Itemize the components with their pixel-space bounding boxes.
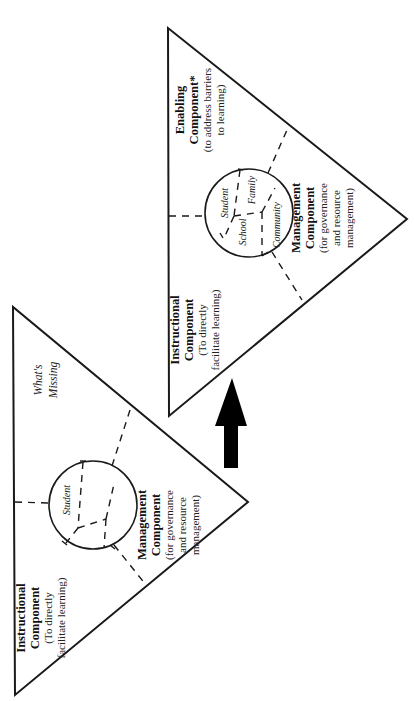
right-management-title1: Management bbox=[289, 182, 303, 253]
whats-label: What's bbox=[32, 364, 44, 396]
right-enabling-title1: Enabling bbox=[173, 85, 187, 134]
right-enabling-title2: Component* bbox=[187, 76, 201, 145]
right-divider-lower bbox=[272, 252, 302, 300]
left-instructional-desc2: facilitate learning) bbox=[55, 577, 68, 658]
left-instructional-desc1: (To directly bbox=[42, 592, 55, 644]
right-enabling-desc2: to learning) bbox=[214, 84, 227, 135]
right-diagram: Student School Family Community Instruct… bbox=[168, 28, 407, 416]
left-instructional-title2: Component bbox=[28, 586, 42, 649]
right-inner-dash-2 bbox=[225, 216, 234, 236]
right-management-component: Management Component (for governance and… bbox=[289, 182, 356, 253]
left-management-desc1: (for governance bbox=[163, 490, 176, 560]
left-management-desc3: management) bbox=[189, 495, 202, 555]
left-inner-dash-2 bbox=[78, 519, 106, 528]
right-divider-upper bbox=[268, 130, 287, 173]
right-instructional-component: Instructional Component (To directly fac… bbox=[168, 289, 222, 370]
left-inner-dash-4 bbox=[104, 519, 106, 548]
right-inner-dash-1 bbox=[234, 170, 240, 216]
left-inner-dash-1 bbox=[78, 462, 83, 528]
right-instructional-desc1: (To directly bbox=[196, 304, 209, 356]
right-management-desc1: (for governance bbox=[317, 183, 330, 253]
left-instructional-title1: Instructional bbox=[14, 583, 28, 653]
missing-label: Missing bbox=[47, 362, 60, 400]
right-instructional-title1: Instructional bbox=[168, 295, 182, 365]
diagram-canvas: Student What's Missing Instructional Com… bbox=[0, 0, 415, 701]
left-instructional-component: Instructional Component (To directly fac… bbox=[14, 577, 68, 658]
left-whats-missing: What's Missing bbox=[32, 362, 60, 400]
left-divider-upper bbox=[112, 410, 130, 466]
left-inner-dash-5 bbox=[66, 528, 78, 543]
right-enabling-component: Enabling Component* (to address barriers… bbox=[173, 68, 227, 152]
right-family-label: Family bbox=[246, 175, 257, 205]
right-management-title2: Component bbox=[303, 186, 317, 249]
left-student-label: Student bbox=[61, 485, 72, 515]
left-inner-dash-3 bbox=[106, 484, 114, 519]
right-school-label: School bbox=[237, 218, 248, 245]
right-tick-1 bbox=[220, 233, 223, 238]
left-management-title2: Component bbox=[149, 493, 163, 556]
right-instructional-title2: Component bbox=[182, 298, 196, 361]
right-instructional-desc2: facilitate learning) bbox=[209, 289, 222, 370]
left-management-desc2: and resource bbox=[176, 497, 188, 553]
right-management-desc3: management) bbox=[343, 188, 356, 248]
left-divider-left bbox=[15, 502, 49, 503]
right-enabling-desc1: (to address barriers bbox=[201, 68, 214, 152]
right-management-desc2: and resource bbox=[330, 190, 342, 246]
right-tick-2 bbox=[238, 169, 243, 170]
right-community-label: Community bbox=[271, 201, 282, 248]
right-student-label: Student bbox=[219, 188, 230, 218]
left-management-title1: Management bbox=[135, 489, 149, 560]
arrow-up-icon bbox=[215, 378, 247, 468]
left-management-component: Management Component (for governance and… bbox=[135, 489, 202, 560]
transition-arrow bbox=[215, 378, 247, 468]
right-inner-dash-3 bbox=[234, 212, 262, 216]
